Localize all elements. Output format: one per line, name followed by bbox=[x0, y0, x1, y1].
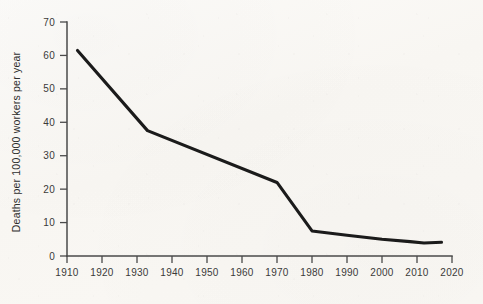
x-tick-label: 1980 bbox=[300, 267, 324, 278]
chart-figure: Deaths per 100,000 workers per year 0102… bbox=[0, 0, 483, 304]
y-axis-ticks: 010203040506070 bbox=[43, 17, 67, 262]
data-series-line bbox=[78, 50, 442, 243]
x-tick-label: 2020 bbox=[440, 267, 464, 278]
y-tick-label: 70 bbox=[43, 17, 55, 28]
x-tick-label: 1930 bbox=[125, 267, 149, 278]
y-tick-label: 60 bbox=[43, 50, 55, 61]
x-tick-label: 1940 bbox=[160, 267, 184, 278]
x-tick-label: 1910 bbox=[55, 267, 79, 278]
x-tick-label: 1990 bbox=[335, 267, 359, 278]
x-tick-label: 1970 bbox=[265, 267, 289, 278]
y-tick-label: 50 bbox=[43, 83, 55, 94]
line-chart: Deaths per 100,000 workers per year 0102… bbox=[0, 0, 483, 304]
x-tick-label: 1960 bbox=[230, 267, 254, 278]
x-tick-label: 1950 bbox=[195, 267, 219, 278]
x-tick-label: 2010 bbox=[405, 267, 429, 278]
x-axis-ticks: 1910192019301940195019601970198019902000… bbox=[55, 256, 464, 278]
x-tick-label: 2000 bbox=[370, 267, 394, 278]
x-tick-label: 1920 bbox=[90, 267, 114, 278]
y-tick-label: 10 bbox=[43, 217, 55, 228]
y-axis-title: Deaths per 100,000 workers per year bbox=[10, 52, 22, 233]
y-tick-label: 40 bbox=[43, 117, 55, 128]
y-tick-label: 30 bbox=[43, 150, 55, 161]
y-tick-label: 0 bbox=[49, 251, 55, 262]
y-tick-label: 20 bbox=[43, 184, 55, 195]
